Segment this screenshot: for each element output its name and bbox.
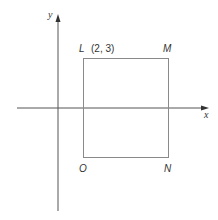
vertex-label-o: O xyxy=(79,163,87,174)
vertex-label-n: N xyxy=(164,163,172,174)
y-axis-label: y xyxy=(47,9,53,20)
y-axis-arrow-icon xyxy=(56,14,61,22)
x-axis-label: x xyxy=(203,109,209,120)
vertex-label-m: M xyxy=(163,43,172,54)
vertex-l-coordinates: (2, 3) xyxy=(91,43,114,54)
vertex-label-l: L xyxy=(79,43,85,54)
coordinate-diagram: y x L (2, 3) M O N xyxy=(0,0,218,220)
